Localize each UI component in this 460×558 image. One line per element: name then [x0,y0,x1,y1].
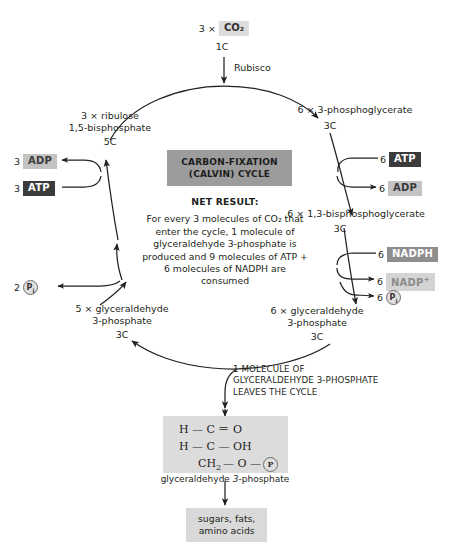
products-line1: sugars, fats, [198,513,255,524]
node-pga: 6 × 3-phosphoglycerate [298,104,413,116]
cofactor-nadph-coef: 6 [378,249,384,260]
molecule-structure-box: H — C ＝ O H — C — OH CH2— O —P [163,416,288,473]
molecule-row-2: H — C — OH [179,438,288,455]
co2-coefficient: 3 × [199,23,216,34]
cycle-title-box: CARBON-FIXATION (CALVIN) CYCLE [167,150,292,186]
molecule-caption-tail: -phosphate [239,474,290,484]
nadp-plus-badge: NADP+ [386,273,435,291]
cofactor-right-atp: 6ATP [380,152,421,167]
molecule-row-3: CH2— O —P [198,455,288,476]
cofactor-right-adp: 6ADP [379,181,422,196]
cofactor-left-adp-coef: 3 [14,156,20,167]
cofactor-left-pi: 2Pi [14,280,38,295]
cofactor-right-atp-coef: 6 [380,154,386,165]
phosphate-icon-right: Pi [386,290,401,305]
co2-input: 3 ×CO₂ [199,21,249,36]
cofactor-nadp-plus-coef: 6 [377,276,383,287]
cofactor-left-atp-coef: 3 [14,183,20,194]
node-pga-carbon: 3C [324,120,337,131]
net-result-body: For every 3 molecules of CO₂ that enter … [142,213,308,286]
cofactor-left-adp: 3ADP [14,154,57,169]
net-result-block: NET RESULT: For every 3 molecules of CO₂… [141,196,309,288]
cofactor-right-pi-coef: 6 [377,292,383,303]
molecule-caption-plain: glyceraldehyde [161,474,233,484]
exit-caption-line1: 1 MOLECULE OF [233,364,305,374]
node-ribulose-carbon: 5C [104,136,117,147]
node-bpg-carbon: 3C [334,223,347,234]
cofactor-nadph: 6NADPH [378,247,438,262]
node-g3p-right: 6 × glyceraldehyde 3-phosphate [257,305,377,329]
rubisco-enzyme-label: Rubisco [234,62,271,73]
node-g3p-left-line2: 3-phosphate [92,315,152,326]
adp-badge: ADP [23,154,57,169]
cofactor-left-atp: 3ATP [14,181,55,196]
node-g3p-right-carbon: 3C [311,331,324,342]
exit-caption-line3: LEAVES THE CYCLE [233,387,317,397]
cofactor-right-adp-coef: 6 [379,183,385,194]
cofactor-right-pi: 6Pi [377,290,401,305]
products-box: sugars, fats, amino acids [186,508,267,542]
cycle-title-line2: (CALVIN) CYCLE [189,169,270,179]
phosphate-icon-molecule: P [263,457,278,472]
products-line2: amino acids [199,525,255,536]
co2-badge: CO₂ [219,21,249,36]
cycle-title-line1: CARBON-FIXATION [181,157,278,167]
calvin-cycle-diagram: 3 ×CO₂ 1C Rubisco 3 × ribulose 1,5-bisph… [0,0,460,558]
node-ribulose-line2: 1,5-bisphosphate [69,122,151,133]
atp-badge: ATP [23,181,55,196]
node-g3p-left: 5 × glyceraldehyde 3-phosphate [62,303,182,327]
phosphate-icon: Pi [23,280,38,295]
net-result-heading: NET RESULT: [141,196,309,208]
node-g3p-right-line1: 6 × glyceraldehyde [270,305,363,316]
node-ribulose-line1: 3 × ribulose [81,110,139,121]
node-g3p-left-line1: 5 × glyceraldehyde [75,303,168,314]
co2-carbon-count: 1C [216,41,229,52]
node-ribulose: 3 × ribulose 1,5-bisphosphate [55,110,165,134]
cofactor-left-pi-coef: 2 [14,282,20,293]
cofactor-nadp-plus: 6NADP+ [377,273,435,291]
molecule-caption: glyceraldehyde 3-phosphate [161,474,290,484]
nadph-badge: NADPH [387,247,438,262]
node-g3p-right-line2: 3-phosphate [287,317,347,328]
node-g3p-left-carbon: 3C [116,329,129,340]
adp-badge-right: ADP [388,181,422,196]
molecule-row-1: H — C ＝ O [179,421,288,438]
exit-caption-line2: GLYCERALDEHYDE 3-PHOSPHATE [233,375,378,385]
exit-caption: 1 MOLECULE OF GLYCERALDEHYDE 3-PHOSPHATE… [233,364,378,398]
atp-badge-right: ATP [389,152,421,167]
